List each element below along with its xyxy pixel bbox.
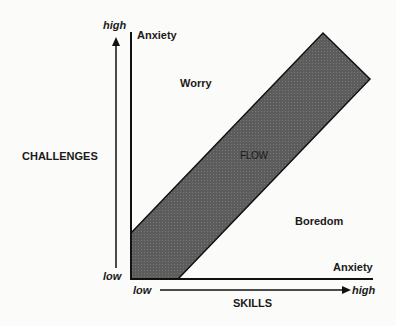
region-label-flow: FLOW bbox=[240, 151, 268, 161]
region-label-anxiety-top: Anxiety bbox=[137, 30, 177, 41]
x-axis-title: SKILLS bbox=[233, 298, 272, 309]
region-label-boredom: Boredom bbox=[295, 216, 343, 227]
challenges-arrowhead-icon bbox=[112, 37, 120, 46]
region-label-worry: Worry bbox=[180, 78, 212, 89]
x-axis-high-label: high bbox=[352, 285, 375, 296]
flow-diagram-canvas bbox=[0, 0, 396, 326]
skills-arrowhead-icon bbox=[342, 286, 351, 294]
y-axis-low-label: low bbox=[103, 271, 121, 282]
y-axis-title: CHALLENGES bbox=[22, 151, 98, 162]
region-label-anxiety-bottom: Anxiety bbox=[333, 262, 373, 273]
x-axis-low-label: low bbox=[133, 285, 151, 296]
y-axis-high-label: high bbox=[103, 20, 126, 31]
